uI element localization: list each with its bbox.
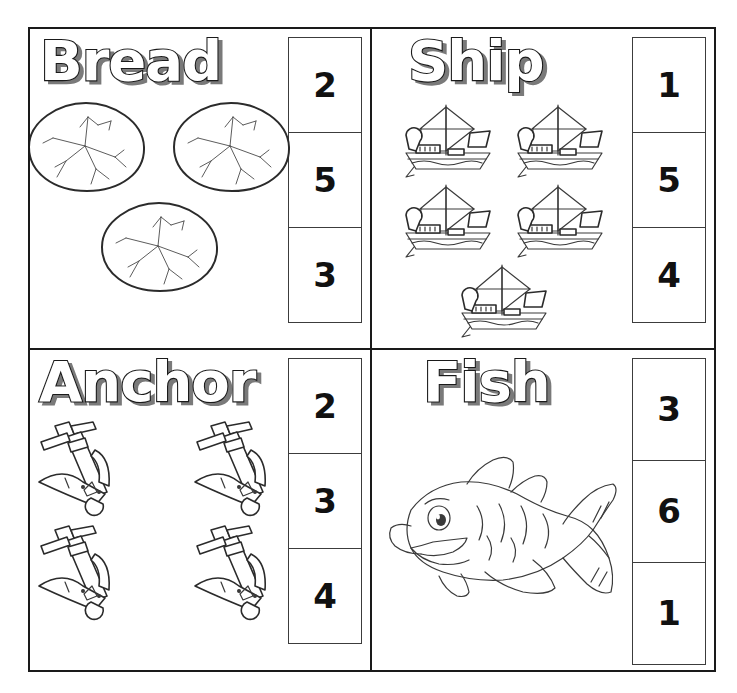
ship-choice-0[interactable]: 1: [633, 38, 705, 133]
panel-ship-body: Ship Ship: [372, 29, 632, 348]
panel-anchor-title: Anchor Anchor: [30, 356, 288, 418]
ship-row-3: [372, 259, 632, 339]
panel-anchor-body: Anchor Anchor: [30, 350, 288, 671]
fish-choice-2[interactable]: 1: [633, 563, 705, 664]
panel-bread-title: Bread Bread: [30, 35, 288, 97]
bread-icon: [170, 99, 293, 195]
bread-row-2: [30, 199, 288, 295]
title-text: Fish: [423, 350, 550, 414]
anchor-object-group: [30, 418, 288, 671]
bread-choice-0[interactable]: 2: [289, 38, 361, 133]
panel-fish-title: Fish Fish: [372, 356, 632, 418]
ship-row-1: [372, 99, 632, 179]
ship-row-2: [372, 179, 632, 259]
panel-bread: Bread Bread: [30, 29, 372, 350]
ship-icon: [506, 99, 610, 179]
anchor-icon: [191, 524, 283, 628]
panel-fish: Fish Fish: [372, 350, 714, 671]
anchor-row-2: [30, 524, 288, 628]
fish-choice-1[interactable]: 6: [633, 461, 705, 563]
bread-icon: [30, 99, 148, 195]
title-text: Anchor: [39, 350, 257, 414]
worksheet-sheet: Bread Bread: [28, 27, 716, 672]
ship-choice-1[interactable]: 5: [633, 133, 705, 228]
ship-object-group: [372, 97, 632, 348]
ship-icon: [450, 259, 554, 339]
fish-choice-column: 3 6 1: [632, 358, 706, 665]
bread-icon: [98, 199, 221, 295]
anchor-icon: [35, 420, 127, 524]
anchor-icon: [191, 420, 283, 524]
panel-bread-body: Bread Bread: [30, 29, 288, 348]
ship-choice-2[interactable]: 4: [633, 228, 705, 322]
anchor-choice-column: 2 3 4: [288, 358, 362, 644]
anchor-choice-2[interactable]: 4: [289, 549, 361, 643]
panel-ship: Ship Ship: [372, 29, 714, 350]
ship-icon: [506, 179, 610, 259]
anchor-icon: [35, 524, 127, 628]
anchor-choice-0[interactable]: 2: [289, 359, 361, 454]
fish-icon: [377, 444, 627, 604]
ship-icon: [394, 99, 498, 179]
ship-choice-column: 1 5 4: [632, 37, 706, 323]
bread-row-1: [30, 99, 288, 195]
ship-icon: [394, 179, 498, 259]
title-text: Ship: [408, 29, 543, 93]
fish-object-group: [372, 418, 632, 671]
bread-choice-column: 2 5 3: [288, 37, 362, 323]
panel-ship-title: Ship Ship: [372, 35, 632, 97]
panel-anchor: Anchor Anchor: [30, 350, 372, 671]
title-text: Bread: [40, 29, 221, 93]
panel-fish-body: Fish Fish: [372, 350, 632, 671]
fish-choice-0[interactable]: 3: [633, 359, 705, 461]
anchor-choice-1[interactable]: 3: [289, 454, 361, 549]
bread-choice-1[interactable]: 5: [289, 133, 361, 228]
fish-row-1: [372, 444, 632, 604]
bread-object-group: [30, 97, 288, 348]
bread-choice-2[interactable]: 3: [289, 228, 361, 322]
anchor-row-1: [30, 420, 288, 524]
